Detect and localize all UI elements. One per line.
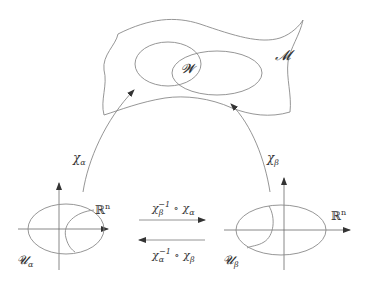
transition-bottom-second: χ [183, 249, 190, 262]
left-chart-overlap [65, 210, 94, 252]
transition-top-label: χβ−1 ∘ χα [152, 201, 195, 217]
map-alpha-label: χα [73, 152, 86, 167]
transition-bottom-label: χα−1 ∘ χβ [152, 248, 195, 264]
transition-top-sup: −1 [158, 200, 170, 209]
transition-bottom-sub: α [159, 255, 164, 264]
map-beta-sub: β [274, 158, 279, 167]
map-alpha-sub: α [80, 158, 85, 167]
chart-map-alpha-arrow [83, 90, 134, 192]
transition-bottom-second-sub: β [190, 255, 195, 264]
domain-beta-sub: β [234, 260, 239, 269]
space-beta-sup: n [341, 208, 346, 217]
right-chart-overlap [247, 206, 273, 248]
manifold-label: 𝓜 [275, 48, 291, 62]
space-alpha-sup: n [105, 202, 110, 211]
transition-top-compose: ∘ [170, 202, 182, 215]
manifold-diagram [0, 0, 366, 285]
transition-bottom-sup: −1 [159, 247, 171, 256]
domain-alpha-symbol: 𝓤 [17, 253, 28, 267]
transition-bottom-compose: ∘ [171, 249, 183, 262]
space-beta-symbol: ℝ [331, 209, 341, 223]
space-alpha-symbol: ℝ [95, 203, 105, 217]
domain-beta-label: 𝓤β [223, 254, 239, 269]
chart-map-beta-arrow [231, 104, 270, 192]
domain-alpha-sub: α [28, 260, 33, 269]
transition-bottom-base: χ [152, 249, 159, 262]
map-beta-label: χβ [267, 152, 279, 167]
transition-top-sub: β [159, 208, 164, 217]
transition-top-second-sub: α [189, 208, 194, 217]
overlap-label: 𝓦 [181, 62, 195, 75]
manifold-surface [103, 19, 303, 115]
space-alpha-label: ℝn [95, 203, 110, 216]
domain-beta-symbol: 𝓤 [223, 253, 234, 267]
domain-alpha-label: 𝓤α [17, 254, 33, 269]
space-beta-label: ℝn [331, 209, 346, 222]
